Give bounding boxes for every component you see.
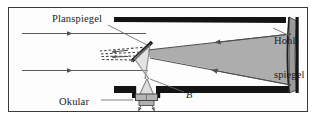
tube-bottom-wall-left [114,86,135,93]
exit-ray-right [152,106,155,112]
telescope-ray-diagram [0,0,319,124]
label-concave-mirror: Hohl- spiegel [274,12,304,103]
eyepiece-lower-barrel [139,101,154,106]
exit-ray-left [139,106,142,112]
eyepiece-group [136,94,158,111]
label-concave-mirror-line1: Hohl- [274,35,304,46]
virtual-ray-arrow-2 [112,56,128,57]
leader-line-planspiegel [108,25,147,45]
label-image-point: B' [186,89,195,100]
tube-top-wall [114,17,286,23]
label-eyepiece: Okular [59,96,89,107]
virtual-ray-arrow-1 [112,50,128,52]
telescope-diagram-screenshot: Planspiegel Hohl- spiegel Okular B' [0,0,319,124]
eyepiece-beam-fill [139,79,154,96]
label-concave-mirror-line2: spiegel [274,69,304,80]
label-plane-mirror: Planspiegel [52,13,102,24]
virtual-ray-4 [101,60,136,61]
